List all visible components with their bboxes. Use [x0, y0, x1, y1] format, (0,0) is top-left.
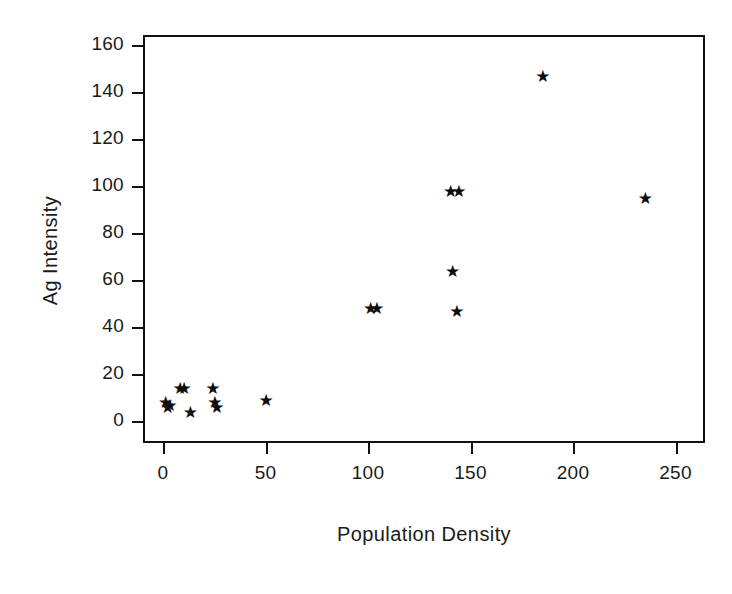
y-axis-tick: [132, 421, 143, 423]
y-axis-title: Ag Intensity: [39, 131, 62, 371]
y-axis-tick-label: 40: [52, 315, 124, 337]
y-axis-tick-label: 80: [52, 221, 124, 243]
y-axis-tick-label: 120: [52, 127, 124, 149]
y-axis-tick-label: 0: [52, 409, 124, 431]
x-axis-tick: [368, 443, 370, 454]
scatter-plot-figure: ★★★★★★★★★★★★★★★★★★ 050100150200250020406…: [0, 0, 732, 594]
y-axis-tick: [132, 327, 143, 329]
y-axis-tick-label: 60: [52, 268, 124, 290]
x-axis-tick-label: 150: [436, 462, 506, 484]
x-axis-tick: [676, 443, 678, 454]
x-axis-tick-label: 200: [538, 462, 608, 484]
x-axis-tick-label: 100: [333, 462, 403, 484]
x-axis-tick: [471, 443, 473, 454]
y-axis-tick: [132, 92, 143, 94]
y-axis-tick: [132, 233, 143, 235]
x-axis-tick-label: 50: [231, 462, 301, 484]
y-axis-tick-label: 20: [52, 362, 124, 384]
plot-frame: [143, 35, 705, 443]
x-axis-title: Population Density: [143, 523, 705, 546]
y-axis-tick: [132, 186, 143, 188]
x-axis-tick: [266, 443, 268, 454]
x-axis-tick-label: 250: [641, 462, 711, 484]
y-axis-tick-label: 160: [52, 33, 124, 55]
x-axis-tick-label: 0: [128, 462, 198, 484]
y-axis-tick: [132, 45, 143, 47]
y-axis-tick-label: 140: [52, 80, 124, 102]
x-axis-tick: [573, 443, 575, 454]
y-axis-tick-label: 100: [52, 174, 124, 196]
x-axis-tick: [163, 443, 165, 454]
y-axis-tick: [132, 280, 143, 282]
y-axis-tick: [132, 139, 143, 141]
y-axis-tick: [132, 374, 143, 376]
